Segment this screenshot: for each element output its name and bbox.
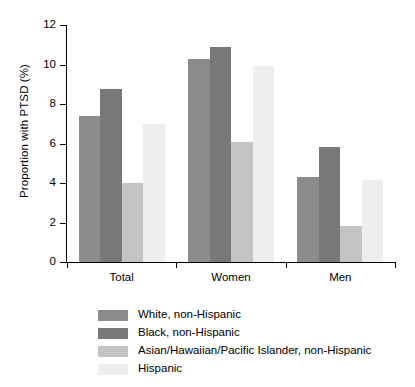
y-tick-2 (60, 223, 66, 224)
bar-men-series-0 (297, 177, 319, 262)
bar-women-series-2 (231, 142, 253, 262)
bar-women-series-0 (188, 59, 210, 262)
bar-total-series-3 (143, 124, 165, 262)
y-tick-4 (60, 183, 66, 184)
bar-men-series-3 (362, 180, 384, 262)
legend-label: Black, non-Hispanic (138, 327, 240, 339)
x-group-label-total: Total (110, 271, 134, 283)
legend-swatch-icon (98, 328, 128, 339)
bar-men-series-2 (340, 226, 362, 262)
y-tick-label: 8 (4, 98, 56, 110)
y-tick-10 (60, 65, 66, 66)
y-tick-6 (60, 144, 66, 145)
ptsd-proportion-bar-chart: Proportion with PTSD (%) 024681012 Total… (0, 0, 415, 387)
legend-item: Black, non-Hispanic (98, 324, 408, 342)
x-tick-1 (176, 262, 177, 268)
legend-label: Asian/Hawaiian/Pacific Islander, non-His… (138, 345, 371, 357)
legend-swatch-icon (98, 364, 128, 375)
legend-swatch-icon (98, 346, 128, 357)
legend-item: Asian/Hawaiian/Pacific Islander, non-His… (98, 342, 408, 360)
bar-total-series-0 (79, 116, 101, 262)
bar-total-series-1 (100, 89, 122, 262)
legend-label: White, non-Hispanic (138, 309, 241, 321)
x-tick-2 (286, 262, 287, 268)
legend-item: White, non-Hispanic (98, 306, 408, 324)
x-axis-line (66, 262, 395, 263)
x-group-label-women: Women (211, 271, 250, 283)
y-tick-8 (60, 104, 66, 105)
y-tick-0 (60, 262, 66, 263)
y-tick-label: 2 (4, 217, 56, 229)
legend-swatch-icon (98, 310, 128, 321)
bar-men-series-1 (319, 147, 341, 262)
y-tick-label: 0 (4, 256, 56, 268)
x-group-label-men: Men (329, 271, 351, 283)
x-tick-0 (67, 262, 68, 268)
x-tick-3 (395, 262, 396, 268)
y-tick-label: 4 (4, 177, 56, 189)
bar-women-series-3 (253, 66, 275, 262)
chart-legend: White, non-HispanicBlack, non-HispanicAs… (98, 306, 408, 378)
bar-women-series-1 (210, 47, 232, 262)
bars-layer (67, 25, 395, 262)
y-tick-label: 6 (4, 138, 56, 150)
legend-item: Hispanic (98, 360, 408, 378)
y-tick-label: 10 (4, 59, 56, 71)
legend-label: Hispanic (138, 363, 182, 375)
bar-total-series-2 (122, 183, 144, 262)
y-tick-label: 12 (4, 19, 56, 31)
y-tick-12 (60, 25, 66, 26)
